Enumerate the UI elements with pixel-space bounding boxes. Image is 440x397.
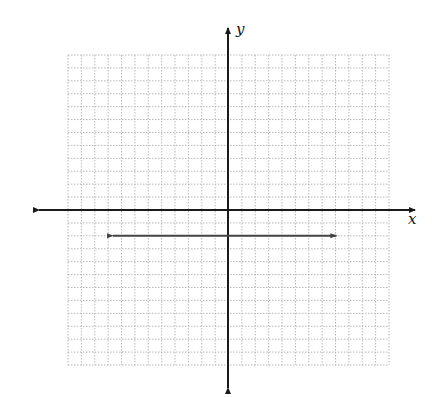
axes <box>39 28 415 388</box>
coordinate-plane <box>0 0 440 397</box>
y-axis-label: y <box>236 22 244 37</box>
x-axis-label: x <box>408 212 416 227</box>
